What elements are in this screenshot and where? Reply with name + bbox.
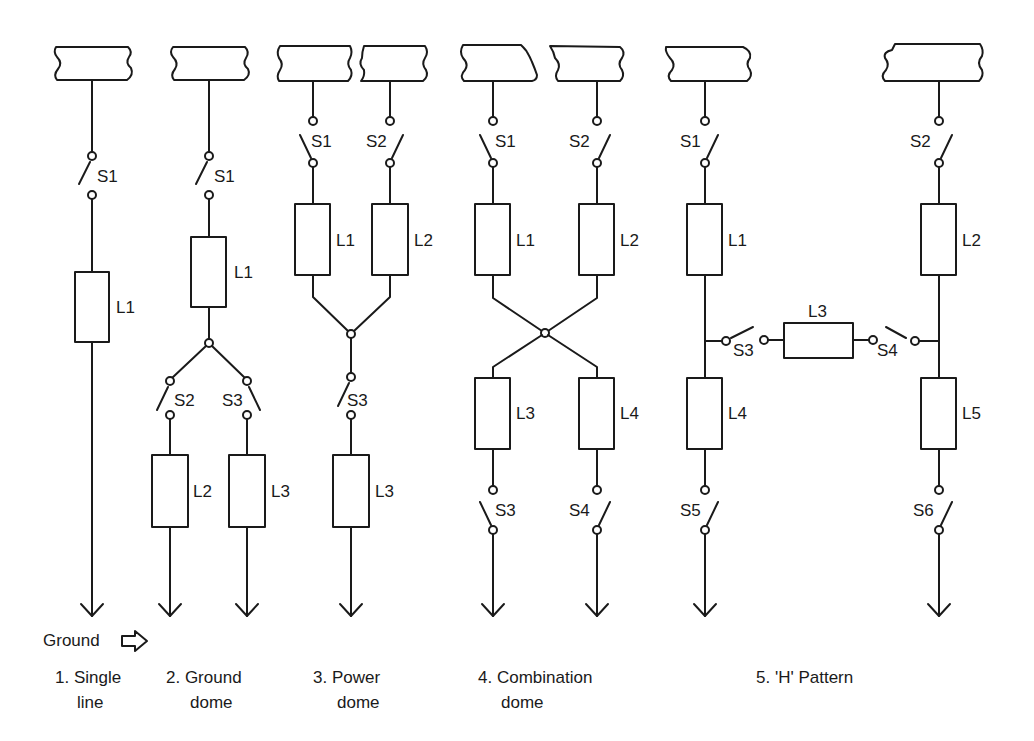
wire xyxy=(548,275,597,331)
switch-blade xyxy=(599,135,610,158)
load-l2 xyxy=(372,204,408,275)
diagram-ground-dome: S1 L1 S2 S3 L2 L3 xyxy=(152,47,290,616)
load-label-l1: L1 xyxy=(116,298,135,317)
switch-contact xyxy=(88,152,96,160)
load-label-l2: L2 xyxy=(193,482,212,501)
switch-contact xyxy=(489,117,497,125)
load-l2 xyxy=(921,204,956,275)
bus-bar xyxy=(171,47,249,80)
switch-label-s3: S3 xyxy=(222,391,243,410)
wire xyxy=(212,346,245,378)
switch-contact xyxy=(593,486,601,494)
switch-blade xyxy=(731,327,753,338)
switch-contact xyxy=(869,336,877,344)
switch-contact xyxy=(593,117,601,125)
switch-contact xyxy=(911,337,919,345)
switch-contact xyxy=(489,486,497,494)
switch-label-s2: S2 xyxy=(910,132,931,151)
bus-bar xyxy=(666,47,751,81)
load-label-l5: L5 xyxy=(962,404,981,423)
switch-contact xyxy=(205,152,213,160)
switch-contact xyxy=(701,159,709,167)
load-label-l2: L2 xyxy=(620,231,639,250)
switch-contact xyxy=(309,159,317,167)
switching-diagram: S1 L1 Ground S1 L1 S2 S3 xyxy=(0,0,1034,741)
switch-contact xyxy=(935,486,943,494)
load-l1 xyxy=(475,204,510,275)
bus-bar xyxy=(55,47,132,80)
diagram-power-dome: S1 L1 S2 L2 S3 L3 xyxy=(278,46,433,616)
wire xyxy=(493,335,542,378)
switch-contact xyxy=(243,411,251,419)
switch-blade xyxy=(886,327,906,338)
switch-contact xyxy=(386,117,394,125)
bus-bar xyxy=(360,46,427,81)
load-l1 xyxy=(191,237,226,307)
switch-contact xyxy=(347,373,355,381)
load-label-l3: L3 xyxy=(516,404,535,423)
load-l4 xyxy=(687,378,722,449)
load-l2 xyxy=(152,455,188,527)
switch-blade xyxy=(941,135,952,158)
switch-contact xyxy=(243,377,251,385)
switch-contact xyxy=(935,526,943,534)
load-l5 xyxy=(921,378,956,449)
bus-bar xyxy=(278,46,352,81)
switch-contact xyxy=(935,159,943,167)
switch-blade xyxy=(79,162,90,184)
load-l3 xyxy=(229,455,265,527)
junction xyxy=(347,330,355,338)
wire xyxy=(354,275,390,331)
bus-bar xyxy=(883,44,983,81)
caption-4-line2: dome xyxy=(501,693,544,712)
bus-bar xyxy=(461,45,537,81)
switch-blade xyxy=(300,135,311,158)
load-label-l1: L1 xyxy=(234,263,253,282)
switch-contact xyxy=(935,117,943,125)
load-l3 xyxy=(784,323,853,358)
load-label-l2: L2 xyxy=(414,231,433,250)
load-l3 xyxy=(333,455,369,527)
switch-contact xyxy=(386,159,394,167)
wire xyxy=(493,275,542,331)
switch-blade xyxy=(249,387,260,410)
load-l1 xyxy=(75,272,109,342)
load-label-l1: L1 xyxy=(516,231,535,250)
switch-label-s1: S1 xyxy=(214,167,235,186)
wire xyxy=(172,346,206,378)
switch-contact xyxy=(722,337,730,345)
switch-contact xyxy=(347,411,355,419)
load-label-l1: L1 xyxy=(336,231,355,250)
wire xyxy=(548,335,597,378)
caption-3-line2: dome xyxy=(337,693,380,712)
switch-label-s1: S1 xyxy=(311,132,332,151)
switch-label-s1: S1 xyxy=(97,167,118,186)
switch-contact xyxy=(701,486,709,494)
load-l1 xyxy=(295,204,330,275)
load-label-l4: L4 xyxy=(620,404,639,423)
caption-5-line1: 5. 'H' Pattern xyxy=(756,668,853,687)
load-label-l1: L1 xyxy=(728,231,747,250)
switch-contact xyxy=(701,117,709,125)
ground-legend: Ground xyxy=(43,631,147,651)
switch-contact xyxy=(593,159,601,167)
load-label-l3: L3 xyxy=(375,482,394,501)
switch-label-s3: S3 xyxy=(495,501,516,520)
switch-label-s2: S2 xyxy=(366,132,387,151)
switch-blade xyxy=(480,135,491,158)
diagram-single-line: S1 L1 xyxy=(55,47,135,616)
bus-bar xyxy=(550,46,624,81)
diagram-combination-dome: S1 L1 S2 L2 L3 S3 L4 S4 xyxy=(461,45,639,616)
caption-4-line1: 4. Combination xyxy=(478,668,592,687)
ground-label: Ground xyxy=(43,631,100,650)
caption-1-line1: 1. Single xyxy=(55,668,121,687)
load-l4 xyxy=(579,378,614,449)
load-label-l3: L3 xyxy=(808,302,827,321)
switch-contact xyxy=(489,159,497,167)
switch-contact xyxy=(489,526,497,534)
switch-contact xyxy=(166,411,174,419)
switch-blade xyxy=(157,387,168,410)
load-label-l2: L2 xyxy=(962,231,981,250)
captions: 1. Single line 2. Ground dome 3. Power d… xyxy=(55,668,853,712)
switch-label-s4: S4 xyxy=(877,341,898,360)
